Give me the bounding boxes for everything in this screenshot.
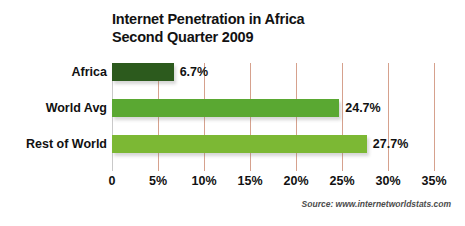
category-label-world-avg: World Avg — [2, 99, 107, 117]
bar-value-rest-of-world: 27.7% — [367, 135, 408, 153]
plot-area: 6.7% 24.7% 27.7% — [112, 63, 434, 171]
bar-row: 27.7% — [112, 135, 465, 153]
x-axis-ticks: 0 5% 10% 15% 20% 25% 30% 35% — [112, 174, 434, 192]
chart-title: Internet Penetration in Africa Second Qu… — [112, 10, 442, 46]
category-label-rest-of-world: Rest of World — [2, 135, 107, 153]
xtick-25: 25% — [329, 174, 354, 188]
xtick-0: 0 — [109, 174, 116, 188]
category-label-africa: Africa — [2, 63, 107, 81]
xtick-15: 15% — [237, 174, 262, 188]
bar-row: 6.7% — [112, 63, 465, 81]
xtick-20: 20% — [283, 174, 308, 188]
source-attribution: Source: www.internetworldstats.com — [302, 199, 451, 209]
xtick-35: 35% — [421, 174, 446, 188]
bar-world-avg — [112, 99, 339, 117]
chart-title-line-2: Second Quarter 2009 — [112, 28, 442, 46]
category-axis-labels: Africa World Avg Rest of World — [0, 63, 107, 171]
xtick-30: 30% — [375, 174, 400, 188]
chart-figure: Internet Penetration in Africa Second Qu… — [0, 0, 465, 226]
chart-title-line-1: Internet Penetration in Africa — [112, 10, 442, 28]
bar-value-world-avg: 24.7% — [339, 99, 380, 117]
xtick-5: 5% — [149, 174, 167, 188]
bar-rest-of-world — [112, 135, 367, 153]
bar-africa — [112, 63, 174, 81]
bar-value-africa: 6.7% — [174, 63, 209, 81]
xtick-10: 10% — [191, 174, 216, 188]
bar-row: 24.7% — [112, 99, 465, 117]
